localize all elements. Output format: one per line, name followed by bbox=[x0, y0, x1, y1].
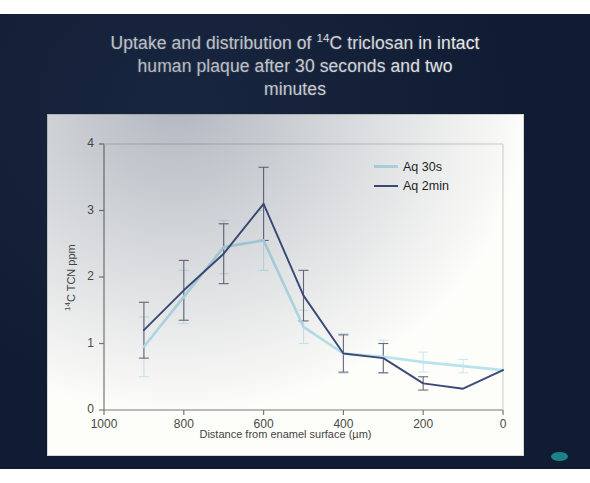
legend-item-1: Aq 2min bbox=[374, 176, 494, 195]
legend-swatch-aq-2min bbox=[374, 185, 398, 187]
chart-legend: Aq 30s Aq 2min bbox=[374, 157, 494, 195]
series-line-aq-30s bbox=[144, 240, 503, 370]
series-line-aq-2min bbox=[144, 204, 503, 389]
title-line-1: Uptake and distribution of 14C triclosan… bbox=[111, 33, 480, 53]
page-title: Uptake and distribution of 14C triclosan… bbox=[55, 32, 535, 101]
title-line-2: human plaque after 30 seconds and two bbox=[137, 56, 452, 76]
title-line-3: minutes bbox=[264, 79, 326, 99]
legend-label-aq-30s: Aq 30s bbox=[403, 160, 442, 174]
legend-swatch-aq-30s bbox=[374, 165, 398, 168]
slide-canvas: Uptake and distribution of 14C triclosan… bbox=[0, 14, 590, 469]
title-superscript-14: 14 bbox=[317, 32, 330, 44]
teal-dot-icon bbox=[551, 452, 568, 461]
legend-label-aq-2min: Aq 2min bbox=[403, 179, 449, 193]
legend-item-0: Aq 30s bbox=[374, 157, 494, 176]
chart-panel: 14C TCN ppm Distance from enamel surface… bbox=[48, 115, 523, 455]
